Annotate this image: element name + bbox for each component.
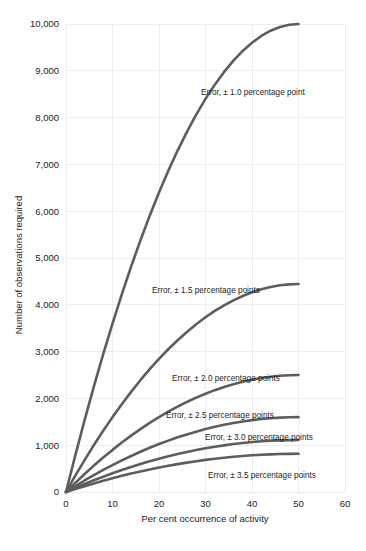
y-tick-label: 9,000 xyxy=(35,65,59,76)
figure-container: 01,0002,0003,0004,0005,0006,0007,0008,00… xyxy=(0,0,366,551)
y-tick-label: 8,000 xyxy=(35,112,59,123)
series-annotation-1: Error, ± 1.0 percentage point xyxy=(201,88,305,97)
x-tick-label: 10 xyxy=(107,498,118,509)
y-axis-title: Number of observations required xyxy=(13,196,24,334)
x-tick-label: 20 xyxy=(154,498,165,509)
x-tick-label: 0 xyxy=(63,498,68,509)
series-annotation-1-5: Error, ± 1.5 percentage points xyxy=(152,286,260,295)
y-tick-label: 7,000 xyxy=(35,159,59,170)
series-annotation-2-5: Error, ± 2.5 percentage points xyxy=(166,411,274,420)
x-tick-label: 60 xyxy=(340,498,351,509)
y-tick-label: 2,000 xyxy=(35,393,59,404)
y-tick-label: 4,000 xyxy=(35,299,59,310)
x-tick-label: 40 xyxy=(247,498,258,509)
series-annotation-2: Error, ± 2.0 percentage points xyxy=(172,374,280,383)
series-annotation-3-5: Error, ± 3.5 percentage points xyxy=(208,471,316,480)
y-tick-label: 3,000 xyxy=(35,346,59,357)
y-tick-label: 5,000 xyxy=(35,252,59,263)
series-annotation-3: Error, ± 3.0 percentage points xyxy=(205,433,313,442)
x-tick-label: 50 xyxy=(293,498,304,509)
y-tick-label: 0 xyxy=(54,486,59,497)
chart-background xyxy=(0,0,366,551)
y-tick-label: 6,000 xyxy=(35,206,59,217)
x-tick-label: 30 xyxy=(200,498,211,509)
observations-required-chart: 01,0002,0003,0004,0005,0006,0007,0008,00… xyxy=(0,0,366,551)
y-tick-label: 10,000 xyxy=(30,18,59,29)
y-tick-label: 1,000 xyxy=(35,440,59,451)
x-axis-title: Per cent occurrence of activity xyxy=(141,513,268,524)
